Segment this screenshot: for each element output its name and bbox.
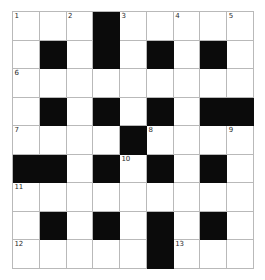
crossword-open-cell[interactable] (200, 126, 227, 155)
crossword-open-cell[interactable] (13, 212, 40, 241)
cell-number: 6 (15, 69, 19, 77)
crossword-open-cell[interactable] (120, 212, 147, 241)
crossword-block-cell (147, 240, 174, 269)
crossword-block-cell (147, 212, 174, 241)
crossword-block-cell (93, 155, 120, 184)
crossword-open-cell[interactable] (174, 98, 201, 127)
crossword-open-cell[interactable] (227, 69, 254, 98)
crossword-open-cell[interactable] (147, 183, 174, 212)
crossword-open-cell[interactable]: 6 (13, 69, 40, 98)
crossword-open-cell[interactable]: 10 (120, 155, 147, 184)
cell-number: 5 (229, 12, 233, 20)
cell-number: 13 (175, 240, 184, 248)
crossword-open-cell[interactable] (174, 69, 201, 98)
crossword-open-cell[interactable] (227, 155, 254, 184)
crossword-block-cell (40, 155, 67, 184)
crossword-open-cell[interactable] (67, 212, 94, 241)
crossword-open-cell[interactable]: 13 (174, 240, 201, 269)
crossword-open-cell[interactable] (67, 98, 94, 127)
crossword-open-cell[interactable] (93, 69, 120, 98)
crossword-open-cell[interactable]: 8 (147, 126, 174, 155)
cell-number: 3 (122, 12, 126, 20)
crossword-open-cell[interactable] (200, 183, 227, 212)
crossword-open-cell[interactable] (227, 183, 254, 212)
crossword-open-cell[interactable] (147, 12, 174, 41)
crossword-block-cell (120, 126, 147, 155)
crossword-open-cell[interactable]: 7 (13, 126, 40, 155)
cell-number: 2 (68, 12, 72, 20)
crossword-open-cell[interactable]: 2 (67, 12, 94, 41)
crossword-open-cell[interactable] (93, 240, 120, 269)
crossword-block-cell (147, 41, 174, 70)
crossword-open-cell[interactable] (227, 212, 254, 241)
crossword-open-cell[interactable] (120, 183, 147, 212)
crossword-open-cell[interactable] (174, 155, 201, 184)
cell-number: 10 (122, 155, 131, 163)
crossword-open-cell[interactable]: 5 (227, 12, 254, 41)
crossword-open-cell[interactable] (40, 183, 67, 212)
crossword-block-cell (93, 41, 120, 70)
crossword-open-cell[interactable] (13, 98, 40, 127)
crossword-block-cell (40, 98, 67, 127)
crossword-open-cell[interactable] (40, 240, 67, 269)
crossword-open-cell[interactable] (67, 69, 94, 98)
crossword-open-cell[interactable] (67, 155, 94, 184)
cell-number: 12 (15, 240, 24, 248)
crossword-open-cell[interactable] (227, 240, 254, 269)
crossword-open-cell[interactable]: 11 (13, 183, 40, 212)
crossword-open-cell[interactable] (67, 240, 94, 269)
crossword-open-cell[interactable] (13, 41, 40, 70)
crossword-block-cell (200, 212, 227, 241)
crossword-open-cell[interactable] (40, 126, 67, 155)
cell-number: 4 (175, 12, 179, 20)
crossword-open-cell[interactable] (200, 12, 227, 41)
crossword-open-cell[interactable] (174, 183, 201, 212)
crossword-block-cell (200, 98, 227, 127)
crossword-open-cell[interactable] (67, 126, 94, 155)
crossword-open-cell[interactable] (120, 98, 147, 127)
crossword-block-cell (227, 98, 254, 127)
crossword-open-cell[interactable] (120, 41, 147, 70)
crossword-block-cell (147, 155, 174, 184)
crossword-grid[interactable]: 12345678910111213 (12, 11, 254, 269)
crossword-block-cell (147, 98, 174, 127)
cell-number: 7 (15, 126, 19, 134)
crossword-open-cell[interactable] (40, 12, 67, 41)
crossword-block-cell (40, 212, 67, 241)
cell-number: 8 (148, 126, 152, 134)
crossword-open-cell[interactable] (120, 69, 147, 98)
crossword-block-cell (93, 98, 120, 127)
crossword-open-cell[interactable] (93, 126, 120, 155)
crossword-open-cell[interactable] (174, 41, 201, 70)
crossword-block-cell (93, 212, 120, 241)
crossword-block-cell (200, 41, 227, 70)
crossword-open-cell[interactable]: 9 (227, 126, 254, 155)
crossword-open-cell[interactable] (147, 69, 174, 98)
crossword-open-cell[interactable] (200, 240, 227, 269)
cell-number: 1 (15, 12, 19, 20)
crossword-open-cell[interactable]: 4 (174, 12, 201, 41)
cell-number: 11 (15, 183, 24, 191)
crossword-block-cell (40, 41, 67, 70)
crossword-open-cell[interactable] (174, 126, 201, 155)
crossword-open-cell[interactable] (93, 183, 120, 212)
crossword-open-cell[interactable] (67, 41, 94, 70)
crossword-container: 12345678910111213 (0, 0, 265, 280)
crossword-block-cell (200, 155, 227, 184)
crossword-open-cell[interactable] (200, 69, 227, 98)
cell-number: 9 (229, 126, 233, 134)
crossword-block-cell (13, 155, 40, 184)
crossword-open-cell[interactable]: 3 (120, 12, 147, 41)
crossword-open-cell[interactable]: 12 (13, 240, 40, 269)
crossword-open-cell[interactable] (120, 240, 147, 269)
crossword-open-cell[interactable] (174, 212, 201, 241)
crossword-block-cell (93, 12, 120, 41)
crossword-open-cell[interactable] (40, 69, 67, 98)
crossword-open-cell[interactable]: 1 (13, 12, 40, 41)
crossword-open-cell[interactable] (227, 41, 254, 70)
crossword-open-cell[interactable] (67, 183, 94, 212)
